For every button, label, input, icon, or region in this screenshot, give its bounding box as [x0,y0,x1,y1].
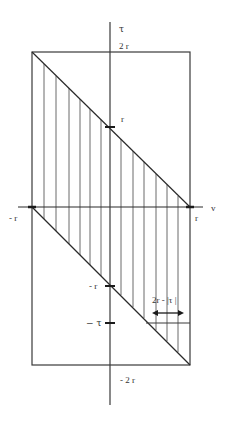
label-width-annotation: 2r - |τ | [152,295,177,305]
integration-region-diagram: τ 2 r r v - r r - r − τ - 2 r 2r - |τ | [0,0,228,425]
label-minus-tau: − τ [86,318,101,328]
width-arrow [152,310,184,316]
label-r-vertical: r [121,114,124,124]
tau-axis-label: τ [119,24,124,34]
label-two-r: 2 r [119,41,129,51]
hatching [44,64,178,352]
label-minus-two-r: - 2 r [120,375,135,385]
label-r-horizontal: r [195,213,198,223]
label-minus-r-vertical: - r [89,281,97,291]
label-minus-r-horizontal: - r [9,213,17,223]
label-v-axis: v [211,203,216,213]
